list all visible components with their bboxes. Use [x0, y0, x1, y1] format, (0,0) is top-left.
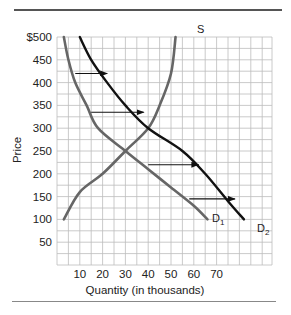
x-tick-label: 10: [73, 268, 86, 280]
demand2-curve-label: D2: [257, 222, 270, 237]
y-tick-label: $500: [26, 31, 52, 43]
y-tick-label: 250: [33, 145, 52, 157]
grid: [57, 37, 272, 265]
y-tick-label: 100: [33, 213, 52, 225]
x-axis-label: Quantity (in thousands): [86, 284, 205, 296]
y-tick-label: 50: [39, 236, 52, 248]
y-tick-label: 200: [33, 168, 52, 180]
y-axis-label: Price: [11, 137, 23, 163]
demand1-curve-label: D1: [212, 212, 225, 227]
x-tick-label: 70: [210, 268, 223, 280]
supply-curve-label: S: [197, 23, 204, 35]
y-tick-label: 400: [33, 77, 52, 89]
bottom-rule: [12, 301, 276, 302]
x-tick-label: 40: [142, 268, 155, 280]
y-tick-label: 350: [33, 99, 52, 111]
x-tick-label: 20: [96, 268, 109, 280]
y-axis-ticks: $50045040035030025020015010050: [26, 31, 52, 248]
supply-demand-chart: $50045040035030025020015010050 102030405…: [0, 0, 291, 315]
x-tick-label: 30: [119, 268, 132, 280]
y-tick-label: 450: [33, 54, 52, 66]
x-tick-label: 50: [165, 268, 178, 280]
x-axis-ticks: 10203040506070: [73, 268, 223, 280]
y-tick-label: 300: [33, 122, 52, 134]
x-tick-label: 60: [187, 268, 200, 280]
y-tick-label: 150: [33, 191, 52, 203]
